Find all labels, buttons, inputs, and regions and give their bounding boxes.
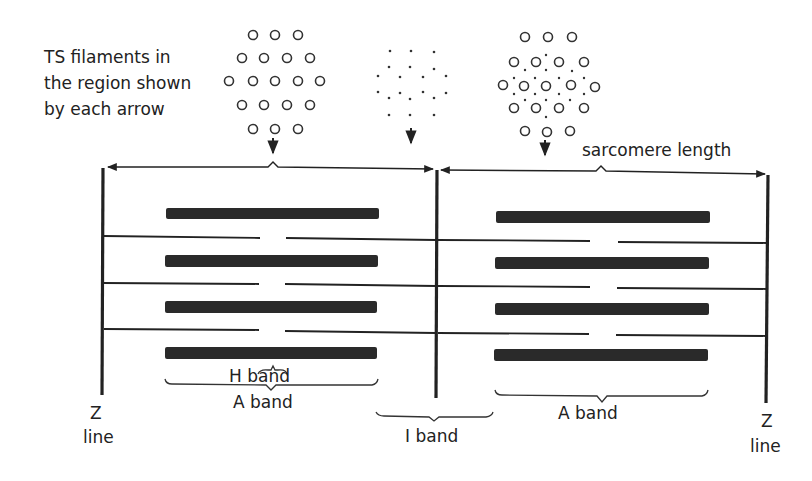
z-line-right xyxy=(766,175,768,403)
z-line-right-label-bottom: line xyxy=(750,436,781,456)
cross-section-thin-only xyxy=(377,50,448,117)
z-line-middle xyxy=(436,170,437,398)
figure-caption: TS filaments in the region shown by each… xyxy=(44,44,191,122)
a-band-right-brace xyxy=(495,390,708,402)
cross-section-thick-only xyxy=(225,31,325,134)
caption-line-2: the region shown xyxy=(44,70,191,96)
i-band-label: I band xyxy=(405,426,458,446)
z-line-right-label-top: Z xyxy=(761,411,773,431)
i-band-brace xyxy=(376,412,493,421)
caption-line-3: by each arrow xyxy=(44,96,191,122)
caption-line-1: TS filaments in xyxy=(44,44,191,70)
z-line-left-label-top: Z xyxy=(90,403,102,423)
sarcomere-length-label: sarcomere length xyxy=(582,140,731,160)
z-line-left xyxy=(102,168,103,395)
a-band-right-label: A band xyxy=(558,403,618,423)
z-line-left-label-bottom: line xyxy=(83,427,114,447)
h-band-label: H band xyxy=(229,366,290,386)
cross-section-overlap xyxy=(499,33,600,137)
a-band-left-label: A band xyxy=(233,392,293,412)
